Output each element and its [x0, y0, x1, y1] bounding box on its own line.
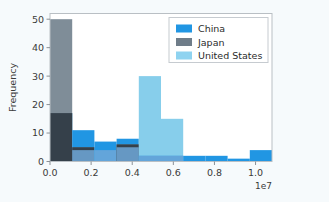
bar-overlap-china-us: [72, 150, 94, 161]
bar-overlap-china-japan: [50, 113, 72, 161]
histogram-figure: 0.00.20.40.60.81.01e701020304050Frequenc…: [0, 0, 329, 202]
bar-china: [205, 156, 227, 162]
x-tick-label: 0.4: [125, 167, 140, 178]
y-tick-label: 50: [32, 14, 44, 25]
bar-overlap-china-us: [139, 156, 161, 162]
y-axis: 01020304050: [32, 14, 50, 167]
legend: ChinaJapanUnited States: [169, 18, 268, 63]
legend-swatch-china: [176, 25, 192, 33]
y-tick-label: 40: [32, 42, 44, 53]
x-tick-label: 0.8: [207, 167, 222, 178]
legend-label-china: China: [198, 23, 225, 34]
y-tick-label: 0: [38, 156, 44, 167]
y-tick-label: 30: [32, 71, 44, 82]
legend-label-united-states: United States: [198, 50, 262, 61]
x-tick-label: 0.0: [42, 167, 57, 178]
bar-china: [183, 156, 205, 162]
legend-swatch-united-states: [176, 52, 192, 60]
legend-swatch-japan: [176, 38, 192, 46]
x-axis-offset-label: 1e7: [255, 181, 272, 191]
legend-label-japan: Japan: [197, 37, 225, 48]
bar-overlap-china-us: [161, 156, 183, 162]
x-tick-label: 1.0: [248, 167, 263, 178]
x-tick-label: 0.6: [166, 167, 181, 178]
bar-united-states: [161, 119, 183, 162]
x-axis: 0.00.20.40.60.81.0: [42, 162, 263, 178]
bar-united-states: [139, 76, 161, 161]
bar-overlap-china-us: [117, 147, 139, 161]
bar-overlap-china-us: [94, 150, 116, 161]
x-tick-label: 0.2: [84, 167, 99, 178]
y-tick-label: 10: [32, 127, 44, 138]
bar-china: [250, 150, 272, 161]
y-tick-label: 20: [32, 99, 44, 110]
y-axis-label: Frequency: [7, 63, 18, 112]
chart-canvas: 0.00.20.40.60.81.01e701020304050Frequenc…: [0, 0, 329, 202]
